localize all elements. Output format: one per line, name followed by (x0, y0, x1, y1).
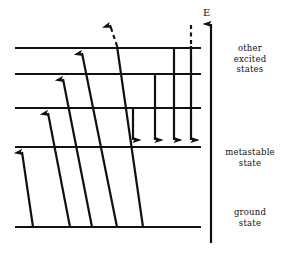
other-excited-states-label: other excited states (218, 43, 282, 75)
excitation-2-arrow (48, 113, 70, 227)
excitation-1-arrow (22, 152, 33, 227)
excitation-arrows (22, 25, 143, 227)
excitation-ionizing-dashed (112, 31, 117, 46)
excitation-ionizing-head (110, 25, 112, 31)
excitation-3-arrow (63, 79, 92, 227)
energy-level-diagram-figure: E other excited states metastable state … (0, 0, 286, 253)
energy-axis-label: E (203, 7, 210, 18)
ground-state-label: ground state (218, 207, 282, 228)
metastable-state-label: metastable state (218, 147, 282, 168)
emission-arrows (133, 25, 191, 140)
